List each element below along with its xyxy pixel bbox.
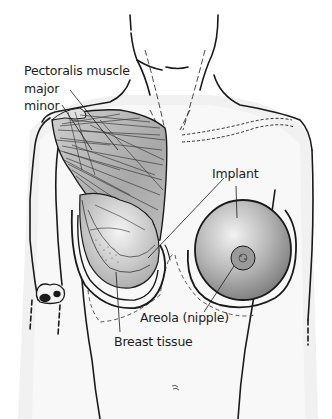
label-implant: Implant bbox=[212, 166, 258, 181]
label-minor: minor bbox=[24, 98, 59, 113]
label-pectoralis-muscle: Pectoralis muscle bbox=[24, 63, 130, 78]
areola bbox=[231, 246, 255, 270]
label-areola: Areola (nipple) bbox=[140, 310, 229, 325]
label-major: major bbox=[24, 81, 59, 96]
label-breast-tissue: Breast tissue bbox=[114, 334, 193, 349]
left-hand bbox=[36, 284, 64, 304]
